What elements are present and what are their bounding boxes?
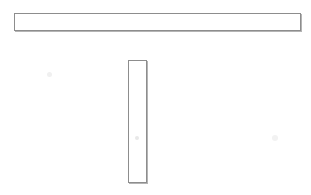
drawing-canvas [0, 0, 311, 195]
vertical-bar [128, 60, 147, 183]
smudge-right-artifact [272, 135, 278, 141]
horizontal-bar [14, 13, 301, 31]
smudge-left-artifact [47, 72, 52, 77]
